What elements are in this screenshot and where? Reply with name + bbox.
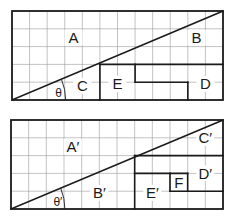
region-label-d: D — [200, 75, 211, 92]
region-label-d-prime: D′ — [199, 165, 213, 182]
region-label-c: C — [77, 77, 88, 94]
angle-label: θ′ — [53, 195, 63, 209]
region-label-e-prime: E′ — [146, 184, 159, 201]
region-label-f: F — [174, 174, 183, 191]
angle-label: θ — [55, 86, 62, 100]
figure-top: θABCED — [12, 11, 223, 100]
dissection-diagram: θABCED θ′A′B′C′D′E′F — [0, 0, 235, 221]
region-label-b: B — [192, 29, 202, 46]
region-label-b-prime: B′ — [93, 184, 106, 201]
region-label-a-prime: A′ — [66, 138, 79, 155]
region-label-c-prime: C′ — [199, 129, 213, 146]
figure-bottom: θ′A′B′C′D′E′F — [11, 120, 223, 209]
region-label-e: E — [112, 75, 122, 92]
region-label-a: A — [69, 29, 79, 46]
